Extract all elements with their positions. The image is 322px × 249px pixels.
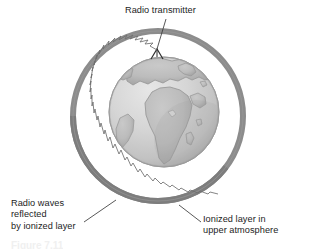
label-radio-transmitter: Radio transmitter [125,5,196,16]
label-radio-waves-reflected: Radio waves reflected by ionized layer [11,198,76,232]
figure-caption: Figure 7.11 [11,240,63,249]
leader-line-reflected-waves [84,200,116,222]
figure-container: Radio transmitter Radio waves reflected … [0,0,322,249]
leader-line-ionized-layer [179,205,201,222]
label-ionized-layer-upper-atmosphere: Ionized layer in upper atmosphere [203,214,278,237]
earth-globe [109,57,238,180]
